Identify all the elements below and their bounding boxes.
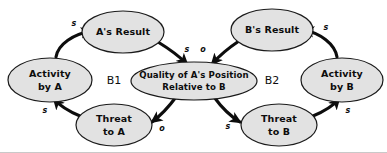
node-threat-a[interactable]: Threat to A [76,104,152,146]
polarity-label-a-result-to-quality: s [185,45,190,54]
polarity-label-activity-a-to-a-result: s [72,19,77,28]
node-quality-center-label-line2: Relative to B [162,82,226,92]
polarity-label-threat-a-to-activity-a: s [43,106,48,115]
node-activity-b[interactable]: Activity by B [301,58,383,102]
loop-label-b2: B2 [265,74,280,87]
node-a-result-label: A's Result [96,26,151,37]
link-quality-to-threat-a [152,97,176,122]
node-threat-a-label-line1: Threat [96,113,132,124]
node-activity-b-label-line1: Activity [321,68,363,79]
node-b-result-label: B's Result [245,24,299,35]
node-threat-b-label-line2: to B [268,126,290,137]
polarity-label-threat-b-to-activity-b: s [346,106,351,115]
polarity-label-quality-to-threat-b: s [226,122,231,131]
polarity-label-activity-b-to-b-result: s [324,23,329,32]
node-activity-a[interactable]: Activity by A [8,58,92,102]
loop-label-b1: B1 [107,74,122,87]
node-threat-a-label-line2: to A [103,126,126,137]
diagram-canvas: Activity by A A's Result Threat to A Qua… [0,0,387,153]
link-a-result-to-quality [158,42,187,64]
link-b-result-to-quality [212,41,239,64]
link-quality-to-threat-b [214,97,240,122]
polarity-label-b-result-to-quality: o [200,45,206,54]
causal-loop-diagram: Activity by A A's Result Threat to A Qua… [0,0,387,153]
node-quality-center-label-line1: Quality of A's Position [139,70,248,80]
node-activity-a-label-line2: by A [38,81,63,92]
node-activity-b-label-line2: by B [330,81,354,92]
node-activity-a-label-line1: Activity [29,68,71,79]
polarity-label-quality-to-threat-a: o [159,124,165,133]
node-quality-center[interactable]: Quality of A's Position Relative to B [131,62,257,100]
node-a-result[interactable]: A's Result [82,11,164,53]
node-threat-b-label-line1: Threat [261,113,297,124]
node-threat-b[interactable]: Threat to B [241,104,317,146]
node-b-result[interactable]: B's Result [231,9,313,51]
bottom-divider [0,152,387,153]
